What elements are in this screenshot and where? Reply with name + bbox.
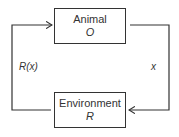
environment-symbol: R <box>55 110 125 123</box>
animal-label: Animal <box>55 13 125 26</box>
animal-symbol: O <box>55 26 125 39</box>
edge-label-rx: R(x) <box>19 61 38 72</box>
edge-x <box>129 25 169 110</box>
environment-label: Environment <box>55 97 125 110</box>
environment-box: Environment R <box>54 92 126 128</box>
edge-label-x: x <box>151 61 156 72</box>
animal-box: Animal O <box>54 8 126 44</box>
